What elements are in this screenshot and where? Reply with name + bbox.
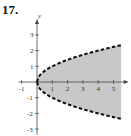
x-tick-label: 4 — [96, 85, 100, 93]
y-tick-label: 2 — [30, 47, 34, 55]
x-axis-arrow-icon — [124, 80, 129, 84]
y-axis-label: y — [37, 12, 42, 20]
y-tick-label: 1 — [30, 63, 34, 71]
y-tick-label: -1 — [27, 94, 33, 102]
y-tick-label: -3 — [27, 126, 33, 134]
x-tick-label: 3 — [81, 85, 85, 93]
x-tick-label: 1 — [51, 85, 55, 93]
plot-area: y-112345-3-2-1123 — [0, 0, 131, 136]
y-tick-label: 3 — [30, 31, 34, 39]
y-tick-label: -2 — [27, 110, 33, 118]
x-tick-label: -1 — [19, 85, 25, 93]
x-tick-label: 2 — [66, 85, 70, 93]
figure: 17. y-112345-3-2-1123 — [0, 0, 131, 136]
x-tick-label: 5 — [112, 85, 116, 93]
